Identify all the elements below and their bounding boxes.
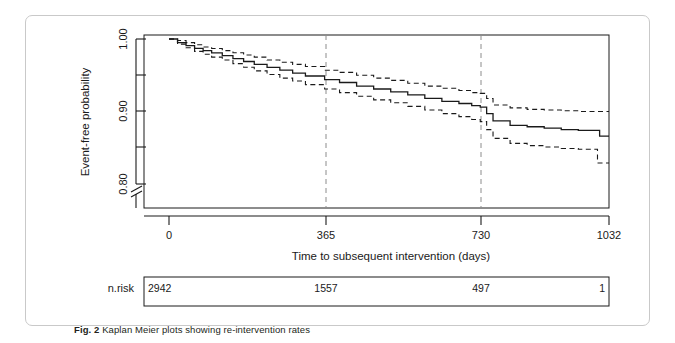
y-tick-label-090: 0.90	[117, 100, 129, 121]
risk-table-box	[144, 277, 609, 306]
y-tick-label-100: 1.00	[117, 28, 129, 49]
ci-upper-curve	[169, 39, 609, 112]
risk-table-value-1032: 1	[599, 282, 605, 294]
x-tick-label-730: 730	[472, 229, 490, 241]
survival-curve	[169, 39, 609, 136]
x-axis-title: Time to subsequent intervention (days)	[292, 250, 491, 262]
figure-caption-text: Kaplan Meier plots showing re-interventi…	[102, 324, 310, 335]
risk-table-value-730: 497	[472, 282, 490, 294]
figure-card: 1.00 0.90 0.80 Event-free probability 0 …	[25, 15, 650, 326]
figure-caption-label: Fig. 2	[74, 324, 99, 335]
risk-table-value-365: 1557	[314, 282, 338, 294]
x-tick-label-1032: 1032	[597, 229, 621, 241]
kaplan-meier-plot: 1.00 0.90 0.80 Event-free probability 0 …	[26, 16, 651, 327]
figure-caption: Fig. 2 Kaplan Meier plots showing re-int…	[74, 324, 310, 335]
x-tick-label-365: 365	[317, 229, 335, 241]
y-axis-title: Event-free probability	[79, 67, 91, 176]
x-tick-label-0: 0	[166, 229, 172, 241]
y-tick-label-080: 0.80	[117, 173, 129, 194]
y-axis-break-mark-upper	[131, 186, 142, 192]
ci-lower-curve	[169, 39, 609, 163]
plot-frame	[144, 35, 609, 208]
x-axis-ticks	[169, 216, 609, 225]
risk-table-label: n.risk	[108, 282, 135, 294]
risk-table-value-0: 2942	[148, 282, 172, 294]
